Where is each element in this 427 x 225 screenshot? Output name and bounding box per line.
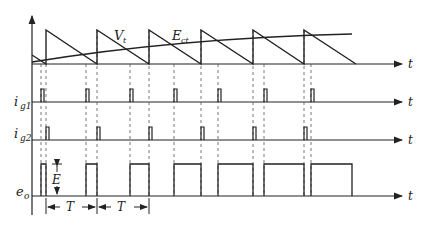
svg-text:t: t xyxy=(123,36,127,45)
svg-text:t: t xyxy=(408,133,413,147)
amplitude-label: E xyxy=(51,173,61,187)
ig1-label: i xyxy=(14,94,18,109)
ig2-label: i xyxy=(14,126,18,141)
svg-text:t: t xyxy=(408,95,413,109)
ig2-pulses xyxy=(46,127,307,140)
time-axes xyxy=(32,64,402,196)
svg-text:ct: ct xyxy=(181,36,189,45)
period-label-2: T xyxy=(117,200,126,214)
svg-text:g1: g1 xyxy=(20,101,32,111)
svg-text:o: o xyxy=(24,191,30,201)
timing-diagram: t t t t V t E ct i g1 xyxy=(0,0,427,225)
eo-pulses xyxy=(41,164,352,196)
period-label-1: T xyxy=(66,200,75,214)
svg-text:g2: g2 xyxy=(20,133,32,143)
period-markers xyxy=(46,198,149,214)
t-axis-labels: t t t t xyxy=(408,57,413,203)
svg-text:t: t xyxy=(408,57,413,71)
svg-text:t: t xyxy=(408,189,413,203)
eo-label: e xyxy=(16,184,24,199)
ig1-pulses xyxy=(41,89,314,102)
